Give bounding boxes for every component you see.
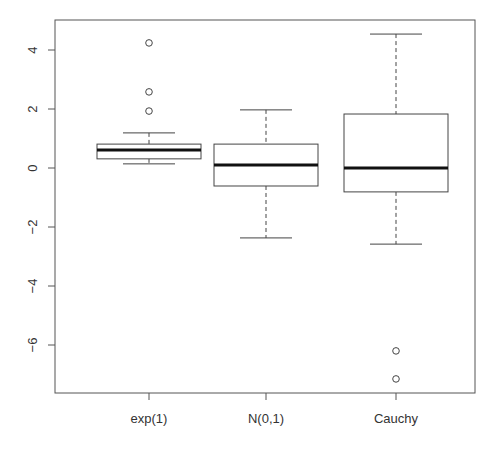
x-tick-label: Cauchy [374,411,419,426]
boxplot-chart: −6−4−2024 exp(1)N(0,1)Cauchy [0,0,498,454]
iqr-box [344,114,448,192]
x-axis: exp(1)N(0,1)Cauchy [131,393,419,426]
y-tick-label: −2 [25,220,40,235]
box-n-0-1 [214,110,318,238]
y-tick-label: −6 [25,338,40,353]
y-axis: −6−4−2024 [25,46,55,352]
boxes-group [97,34,448,382]
outlier-point [393,376,400,383]
box-cauchy [344,34,448,382]
x-tick-label: exp(1) [131,411,168,426]
y-tick-label: −4 [25,279,40,294]
y-tick-label: 2 [25,105,40,112]
outlier-point [146,89,153,96]
y-tick-label: 0 [25,164,40,171]
outlier-point [146,108,153,115]
chart-canvas: −6−4−2024 exp(1)N(0,1)Cauchy [0,0,498,454]
outlier-point [146,40,153,47]
box-exp-1 [97,40,201,164]
plot-frame [55,20,475,393]
y-tick-label: 4 [25,46,40,53]
outlier-point [393,348,400,355]
x-tick-label: N(0,1) [248,411,284,426]
